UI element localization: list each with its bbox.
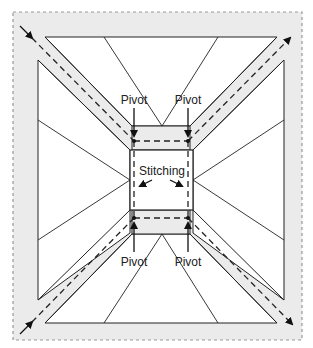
top-seam-band bbox=[132, 126, 190, 150]
pivot-label-top-right: Pivot bbox=[175, 93, 202, 107]
bottom-seam-band bbox=[132, 210, 190, 234]
pivot-label-bottom-left: Pivot bbox=[121, 255, 148, 269]
stitching-label: Stitching bbox=[139, 164, 185, 178]
center-square bbox=[130, 150, 193, 210]
pivot-label-bottom-right: Pivot bbox=[175, 255, 202, 269]
mitered-corner-diagram: Pivot Pivot Pivot Pivot Stitching bbox=[0, 0, 313, 348]
pivot-label-top-left: Pivot bbox=[121, 93, 148, 107]
